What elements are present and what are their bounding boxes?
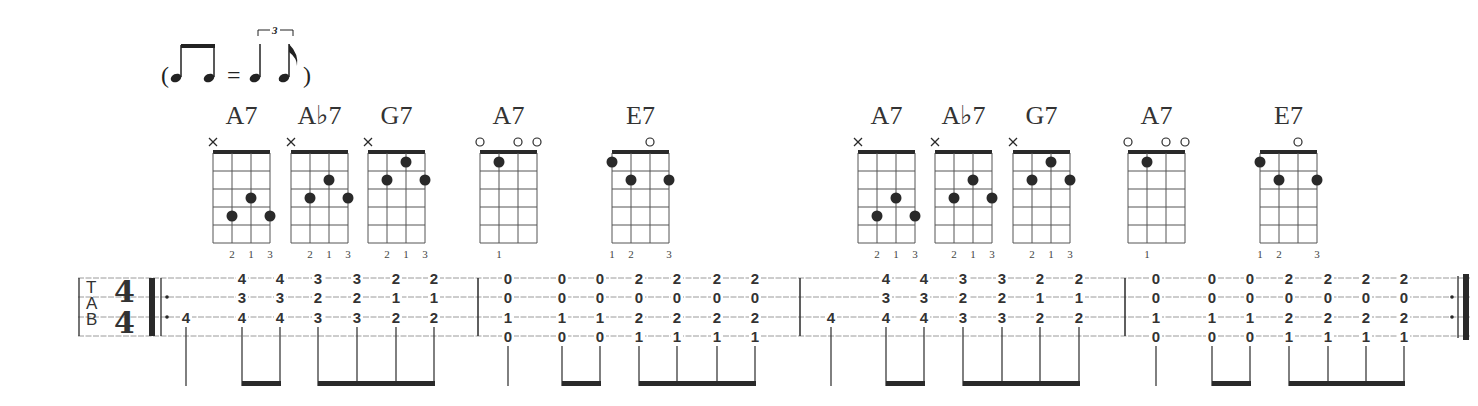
fret-number: 0 <box>1246 289 1254 306</box>
fret-number: 0 <box>635 289 643 306</box>
swing-close-paren: ) <box>303 62 311 88</box>
tab-notes: 4434434323323212212001000100010202120212… <box>180 270 1410 387</box>
finger-dot <box>1142 157 1153 168</box>
fret-number: 0 <box>596 270 604 287</box>
fret-number: 1 <box>1324 328 1332 345</box>
repeat-dot <box>1450 315 1454 319</box>
chord-diagram: G7213 <box>364 101 431 260</box>
finger-number: 1 <box>248 248 254 260</box>
nut <box>480 150 537 154</box>
fret-number: 1 <box>1152 309 1160 326</box>
chord-diagram: A71 <box>1124 101 1189 260</box>
finger-number: 1 <box>496 248 502 260</box>
finger-dot <box>626 175 637 186</box>
fret-number: 0 <box>1324 289 1332 306</box>
chord-name: E7 <box>1274 101 1303 130</box>
finger-dot <box>305 193 316 204</box>
fret-number: 3 <box>314 270 322 287</box>
beam <box>318 381 435 386</box>
finger-number: 1 <box>403 248 409 260</box>
fret-number: 1 <box>1400 328 1408 345</box>
finger-dot <box>949 193 960 204</box>
measure: 4434434323323212212 <box>180 270 440 387</box>
fret-number: 2 <box>1400 309 1408 326</box>
finger-dot <box>324 175 335 186</box>
chord-diagram: A7213 <box>854 101 921 260</box>
measure: 0010001000102021202120212021 <box>502 270 761 387</box>
finger-number: 1 <box>893 248 899 260</box>
chord-name: A♭7 <box>298 101 342 130</box>
finger-dot <box>891 193 902 204</box>
fret-number: 2 <box>673 270 681 287</box>
fret-number: 2 <box>1362 270 1370 287</box>
finger-number: 1 <box>609 248 615 260</box>
chord-diagrams: A7213A♭7213G7213A71E7123A7213A♭7213G7213… <box>209 101 1323 260</box>
fret-number: 2 <box>314 289 322 306</box>
tab-clef-letter: B <box>86 310 97 329</box>
finger-dot <box>420 175 431 186</box>
finger-dot <box>1065 175 1076 186</box>
triplet-number: 3 <box>271 24 278 36</box>
finger-dot <box>382 175 393 186</box>
finger-number: 1 <box>1257 248 1263 260</box>
fret-number: 4 <box>920 309 929 326</box>
fret-number: 1 <box>558 309 566 326</box>
finger-dot <box>494 157 505 168</box>
fret-number: 3 <box>882 289 890 306</box>
finger-number: 2 <box>951 248 957 260</box>
triplet-quarter-eighth-icon: 3 <box>248 24 297 84</box>
fret-number: 2 <box>1400 270 1408 287</box>
nut <box>858 150 915 154</box>
chord-diagram: A7213 <box>209 101 276 260</box>
fret-number: 1 <box>1075 289 1083 306</box>
fret-number: 2 <box>713 309 721 326</box>
chord-name: A7 <box>1141 101 1173 130</box>
chord-name: E7 <box>626 101 655 130</box>
fret-number: 2 <box>1285 270 1293 287</box>
finger-number: 2 <box>384 248 390 260</box>
chord-name: A7 <box>226 101 258 130</box>
finger-dot <box>1027 175 1038 186</box>
fret-number: 2 <box>1324 270 1332 287</box>
fret-number: 1 <box>1285 328 1293 345</box>
fret-number: 0 <box>504 270 512 287</box>
fret-number: 1 <box>673 328 681 345</box>
fret-number: 2 <box>635 270 643 287</box>
open-string-icon <box>533 138 541 146</box>
fret-number: 3 <box>276 289 284 306</box>
finger-dot <box>265 211 276 222</box>
open-string-icon <box>1294 138 1302 146</box>
finger-number: 3 <box>912 248 918 260</box>
finger-dot <box>607 157 618 168</box>
fret-number: 3 <box>314 309 322 326</box>
repeat-dot <box>165 295 169 299</box>
fret-number: 0 <box>596 328 604 345</box>
fret-number: 1 <box>504 309 512 326</box>
fret-number: 2 <box>1036 270 1044 287</box>
finger-number: 3 <box>1314 248 1320 260</box>
nut <box>368 150 425 154</box>
finger-number: 1 <box>1144 248 1150 260</box>
fret-number: 0 <box>1400 289 1408 306</box>
finger-dot <box>1046 157 1057 168</box>
finger-dot <box>664 175 675 186</box>
fret-number: 2 <box>392 270 400 287</box>
fret-number: 2 <box>1324 309 1332 326</box>
fret-number: 0 <box>751 289 759 306</box>
nut <box>291 150 348 154</box>
fret-number: 2 <box>751 309 759 326</box>
fret-number: 3 <box>959 309 967 326</box>
beam <box>886 381 925 386</box>
fret-number: 2 <box>353 289 361 306</box>
finger-dot <box>910 211 921 222</box>
swing-feel-marking: ( = 3 ) <box>161 24 311 88</box>
finger-dot <box>1274 175 1285 186</box>
nut <box>1128 150 1185 154</box>
chord-name: A♭7 <box>942 101 986 130</box>
chord-diagram: A♭7213 <box>931 101 998 260</box>
fret-number: 4 <box>276 270 285 287</box>
fret-number: 3 <box>238 289 246 306</box>
fret-number: 2 <box>392 309 400 326</box>
chord-diagram: A71 <box>476 101 541 260</box>
finger-number: 1 <box>1048 248 1054 260</box>
